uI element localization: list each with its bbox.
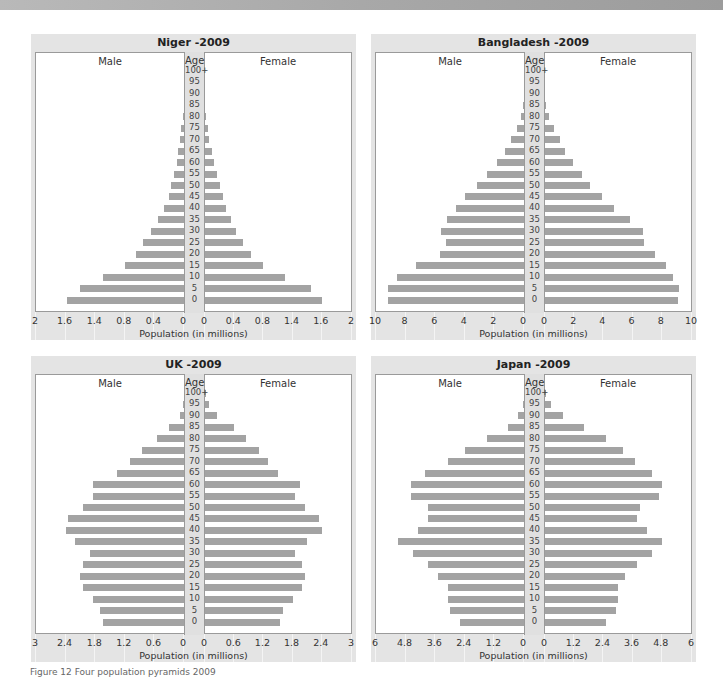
male-bar (93, 481, 184, 488)
age-label: 45 (185, 191, 204, 201)
age-label: 55 (525, 168, 544, 178)
chart-title: UK -2009 (31, 358, 356, 371)
age-label: 20 (525, 248, 544, 258)
age-label: 0 (185, 616, 204, 626)
age-label: 20 (525, 570, 544, 580)
female-bar (545, 424, 584, 431)
female-bar (205, 239, 243, 246)
female-bar (545, 125, 554, 132)
female-bar (205, 401, 209, 408)
female-bar (545, 216, 630, 223)
x-tick-label: 3 (32, 637, 38, 648)
x-tick-label: 0.4 (146, 315, 161, 326)
female-bar (205, 515, 319, 522)
age-label: 35 (185, 214, 204, 224)
female-bar (205, 596, 293, 603)
female-bar (545, 205, 614, 212)
female-bar (545, 193, 602, 200)
x-tick-label: 2.4 (57, 637, 72, 648)
male-bar (440, 251, 524, 258)
male-bar (388, 285, 524, 292)
female-bar (545, 182, 590, 189)
x-tick-label: 1.2 (116, 637, 131, 648)
female-bar (205, 607, 283, 614)
age-label: 45 (525, 513, 544, 523)
male-bar (100, 607, 184, 614)
x-tick-label: 3.6 (427, 637, 442, 648)
age-column: Age0510152025303540455055606570758085909… (184, 52, 205, 313)
female-label: Female (545, 56, 691, 67)
age-label: 40 (185, 202, 204, 212)
male-bar (125, 262, 184, 269)
age-label: 10 (185, 593, 204, 603)
age-label: 60 (185, 157, 204, 167)
x-tick-label: 2 (32, 315, 38, 326)
male-bar (448, 458, 524, 465)
female-bar (205, 573, 305, 580)
age-label: 55 (525, 490, 544, 500)
female-bar (205, 412, 217, 419)
female-bar (545, 171, 582, 178)
x-tick-label: 4 (599, 315, 605, 326)
age-label: 85 (185, 421, 204, 431)
age-label: 25 (185, 559, 204, 569)
female-bar (545, 159, 573, 166)
x-tick-label: 1.8 (87, 637, 102, 648)
male-bar (446, 239, 524, 246)
female-bar (545, 573, 625, 580)
male-bar (136, 251, 184, 258)
age-label: 85 (525, 99, 544, 109)
x-tick-label: 1.2 (566, 637, 581, 648)
pyramid-panel: UK -2009MaleFemaleAge0510152025303540455… (31, 356, 356, 662)
age-label: 45 (185, 513, 204, 523)
male-bar (93, 493, 184, 500)
age-label: 20 (185, 570, 204, 580)
male-bar (83, 561, 184, 568)
female-bar (545, 285, 679, 292)
age-label: 10 (525, 593, 544, 603)
female-bar (205, 148, 212, 155)
age-label: 80 (185, 433, 204, 443)
x-tick-label: 2.4 (595, 637, 610, 648)
male-bar (418, 527, 524, 534)
female-bar (545, 136, 560, 143)
age-label: 70 (185, 134, 204, 144)
male-bar (93, 596, 184, 603)
x-tick-label: 8 (402, 315, 408, 326)
plot-area: MaleFemaleAge051015202530354045505560657… (35, 52, 352, 312)
female-bar (205, 136, 209, 143)
female-bar (205, 470, 278, 477)
male-bar (164, 205, 184, 212)
x-tick-label: 1.6 (313, 315, 328, 326)
age-column: Age0510152025303540455055606570758085909… (524, 52, 545, 313)
x-tick-label: 0 (541, 315, 547, 326)
age-label: 55 (185, 490, 204, 500)
female-bar (545, 228, 643, 235)
male-bar (158, 216, 184, 223)
age-label: 10 (525, 271, 544, 281)
female-bar (545, 527, 647, 534)
age-label: 25 (525, 237, 544, 247)
male-bar (151, 228, 184, 235)
x-tick-label: 1.8 (284, 637, 299, 648)
female-bar (205, 182, 220, 189)
male-bar (505, 148, 524, 155)
x-tick-label: 10 (369, 315, 381, 326)
age-label: 5 (185, 283, 204, 293)
female-bar (205, 251, 251, 258)
female-bar (205, 435, 246, 442)
female-bar (205, 538, 307, 545)
plot-area: MaleFemaleAge051015202530354045505560657… (375, 52, 692, 312)
female-bar (205, 285, 311, 292)
x-tick-label: 0 (180, 315, 186, 326)
female-bar (545, 412, 563, 419)
top-band (0, 0, 723, 10)
male-bar (450, 607, 524, 614)
x-tick-label: 4.8 (397, 637, 412, 648)
female-bar (545, 401, 551, 408)
male-bar (448, 584, 524, 591)
age-label: 75 (185, 122, 204, 132)
age-label: 80 (525, 111, 544, 121)
male-bar (174, 171, 184, 178)
chart-title: Japan -2009 (371, 358, 696, 371)
